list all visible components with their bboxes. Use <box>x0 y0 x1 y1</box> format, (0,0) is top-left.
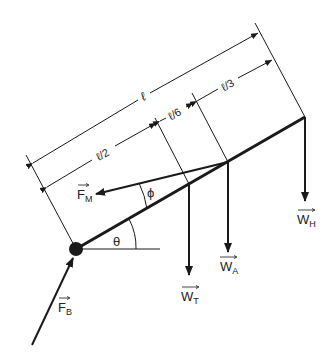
extension-line-end <box>255 23 305 117</box>
force-fm-arrow <box>96 162 228 194</box>
extension-line-arm <box>192 93 228 162</box>
dimension-line-sixth-right <box>186 103 193 107</box>
dimension-line-third-right <box>238 60 272 78</box>
label-sixth-length: ℓ/6 <box>166 105 183 122</box>
dimension-line-half-left <box>47 160 92 187</box>
limb-beam <box>76 117 305 249</box>
vector-overbars <box>59 184 315 300</box>
dimension-line-total-left <box>33 100 138 163</box>
free-body-diagram: ℓ ℓ/2 ℓ/6 ℓ/3 θ ϕ FM FB WT WA WH <box>0 0 334 363</box>
extension-lines <box>26 23 305 249</box>
label-wt: WT <box>181 289 199 306</box>
label-theta: θ <box>113 234 120 249</box>
phi-arc <box>139 183 147 209</box>
label-fb: FB <box>58 300 72 317</box>
extension-line-pivot <box>26 155 76 249</box>
label-phi: ϕ <box>147 185 154 200</box>
pivot-joint <box>69 242 83 256</box>
dimension-line-third-left <box>197 89 218 101</box>
label-fm: FM <box>77 187 92 204</box>
dimension-line-total-right <box>150 33 258 93</box>
label-wh: WH <box>297 212 316 229</box>
label-total-length: ℓ <box>138 89 149 104</box>
dimension-lines <box>33 33 272 187</box>
theta-arc <box>129 219 136 249</box>
label-third-length: ℓ/3 <box>219 76 236 93</box>
label-wa: WA <box>220 259 238 276</box>
label-half-length: ℓ/2 <box>94 146 111 163</box>
extension-line-trunk <box>155 118 189 184</box>
dimension-line-sixth-left <box>160 118 166 121</box>
force-fb-arrow <box>32 258 73 345</box>
dimension-line-half-right <box>115 123 156 146</box>
